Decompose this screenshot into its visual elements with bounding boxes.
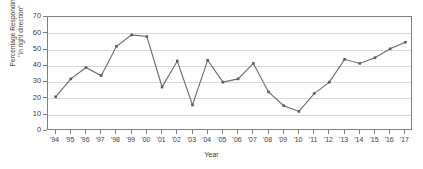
data-point-marker [130,34,133,37]
data-point-marker [146,35,149,38]
x-axis-tick [146,130,147,134]
x-axis-tick [55,130,56,134]
data-point-marker [374,56,377,59]
data-point-marker [161,86,164,89]
x-axis-tick [176,130,177,134]
data-point-marker [313,92,316,95]
x-axis-tick [328,130,329,134]
x-axis-tick [283,130,284,134]
y-axis-tick-label: 60 [3,29,41,36]
series-polyline [56,35,406,112]
x-axis-title: Year [0,150,423,159]
x-axis-tick [374,130,375,134]
x-axis-tick [207,130,208,134]
x-axis-tick [237,130,238,134]
data-point-marker [328,81,331,84]
x-axis-tick [389,130,390,134]
y-axis-tick-label: 50 [3,45,41,52]
x-axis-tick [85,130,86,134]
data-point-marker [176,60,179,63]
data-point-marker [389,47,392,50]
data-point-marker [115,45,118,48]
y-axis-tick-label: 40 [3,61,41,68]
data-point-marker [85,66,88,69]
x-axis-tick-label: '17 [393,136,415,143]
x-axis-tick [404,130,405,134]
data-point-marker [343,58,346,61]
x-axis-tick [131,130,132,134]
y-axis-tick [43,130,47,131]
data-point-marker [298,110,301,113]
data-point-marker [267,91,270,94]
x-axis-tick [161,130,162,134]
x-axis-tick [344,130,345,134]
x-axis-tick [359,130,360,134]
data-point-marker [191,104,194,107]
x-axis-tick [313,130,314,134]
y-axis-tick-label: 30 [3,77,41,84]
data-point-marker [222,81,225,84]
x-axis-tick [222,130,223,134]
data-point-marker [206,59,209,62]
x-axis-tick [70,130,71,134]
data-point-marker [54,96,57,99]
data-series-line [48,17,413,131]
x-axis-tick [268,130,269,134]
data-point-marker [358,62,361,65]
x-axis-tick [252,130,253,134]
data-point-marker [252,62,255,65]
x-axis-tick [100,130,101,134]
data-point-marker [100,74,103,77]
x-axis-tick [298,130,299,134]
y-axis-tick-label: 20 [3,94,41,101]
line-chart: Percentage Responding "in right directio… [0,0,423,169]
plot-area [47,16,412,130]
data-point-marker [70,78,73,81]
data-point-marker [282,104,285,107]
x-axis-tick [192,130,193,134]
data-point-marker [237,78,240,81]
data-point-marker [404,41,407,44]
y-axis-tick-label: 70 [3,12,41,19]
y-axis-tick-label: 0 [3,126,41,133]
y-axis-tick-label: 10 [3,110,41,117]
x-axis-tick [115,130,116,134]
